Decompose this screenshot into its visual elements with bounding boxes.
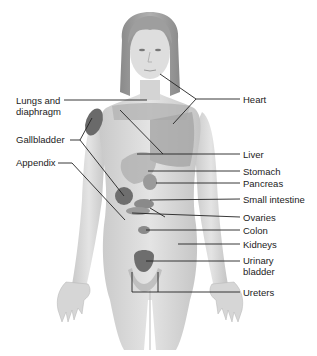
region-heart (150, 112, 194, 167)
label-ureters: Ureters (243, 287, 274, 298)
region-pancreas (143, 174, 157, 190)
label-appendix: Appendix (16, 157, 56, 168)
label-line: bladder (243, 266, 303, 277)
right-hand (210, 282, 243, 322)
label-line: Urinary (243, 255, 303, 266)
label-colon: Colon (243, 225, 268, 236)
label-line: diaphragm (16, 106, 76, 117)
label-heart: Heart (243, 94, 266, 105)
left-hand (57, 282, 90, 322)
label-lungs-diaphragm: Lungs and diaphragm (16, 95, 76, 117)
label-gallbladder: Gallbladder (16, 134, 65, 145)
label-pancreas: Pancreas (243, 178, 283, 189)
label-line: Lungs and (16, 95, 76, 106)
label-liver: Liver (243, 149, 264, 160)
neck (140, 80, 160, 100)
label-kidneys: Kidneys (243, 239, 277, 250)
label-stomach: Stomach (243, 166, 281, 177)
anatomy-diagram: Lungs and diaphragm Gallbladder Appendix… (0, 0, 317, 356)
label-urinary-bladder: Urinary bladder (243, 255, 303, 277)
label-small-intestine: Small intestine (243, 194, 305, 205)
label-ovaries: Ovaries (243, 212, 276, 223)
